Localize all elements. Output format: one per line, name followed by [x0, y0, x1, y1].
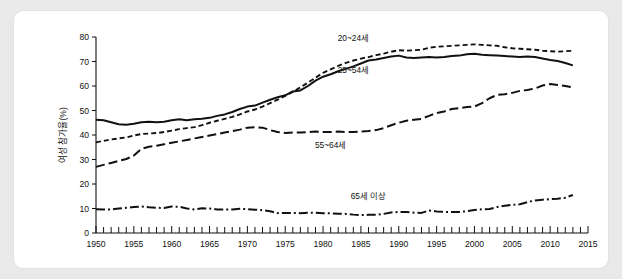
series-line-1	[96, 54, 573, 125]
x-tick-label: 1995	[427, 239, 446, 249]
x-tick-label: 1950	[86, 239, 105, 249]
y-tick-label: 60	[79, 81, 89, 91]
x-tick-label: 1975	[276, 239, 295, 249]
x-tick-label: 2010	[541, 239, 560, 249]
series-label-3: 65세 이상	[351, 191, 387, 201]
y-axis-tick-labels: 01020304050607080	[79, 32, 89, 238]
y-tick-label: 40	[79, 130, 89, 140]
series-line-3	[96, 195, 573, 215]
x-axis-minor-ticks	[96, 226, 588, 233]
series-line-2	[96, 84, 573, 167]
y-tick-label: 0	[84, 228, 89, 238]
x-tick-label: 2005	[503, 239, 522, 249]
x-tick-label: 1990	[389, 239, 408, 249]
series-line-0	[96, 44, 573, 142]
x-tick-label: 2015	[578, 239, 597, 249]
x-axis-tick-labels: 1950195519601965197019751980198519901995…	[86, 239, 597, 249]
y-tick-label: 10	[79, 204, 89, 214]
y-tick-label: 20	[79, 179, 89, 189]
series-label-0: 20~24세	[338, 33, 369, 43]
y-tick-label: 80	[79, 32, 89, 42]
y-tick-label: 30	[79, 155, 89, 165]
x-tick-label: 1980	[314, 239, 333, 249]
series-label-2: 55~64세	[315, 140, 346, 150]
x-tick-label: 1985	[351, 239, 370, 249]
line-chart: 01020304050607080 1950195519601965197019…	[14, 11, 608, 268]
y-tick-label: 70	[79, 57, 89, 67]
y-axis: 01020304050607080	[79, 32, 96, 238]
x-tick-label: 1970	[238, 239, 257, 249]
y-tick-label: 50	[79, 106, 89, 116]
data-series-group	[96, 44, 573, 215]
series-annotation-labels: 20~24세25~54세55~64세65세 이상	[315, 33, 386, 202]
y-axis-ticks	[92, 37, 96, 233]
chart-figure-panel: 01020304050607080 1950195519601965197019…	[14, 11, 608, 268]
x-tick-label: 2000	[465, 239, 484, 249]
x-tick-label: 1960	[162, 239, 181, 249]
x-tick-label: 1965	[200, 239, 219, 249]
series-label-1: 25~54세	[338, 65, 369, 75]
y-axis-title: 여성 참가율(%)	[57, 107, 68, 163]
x-tick-label: 1955	[124, 239, 143, 249]
x-axis: 1950195519601965197019751980198519901995…	[86, 226, 597, 249]
